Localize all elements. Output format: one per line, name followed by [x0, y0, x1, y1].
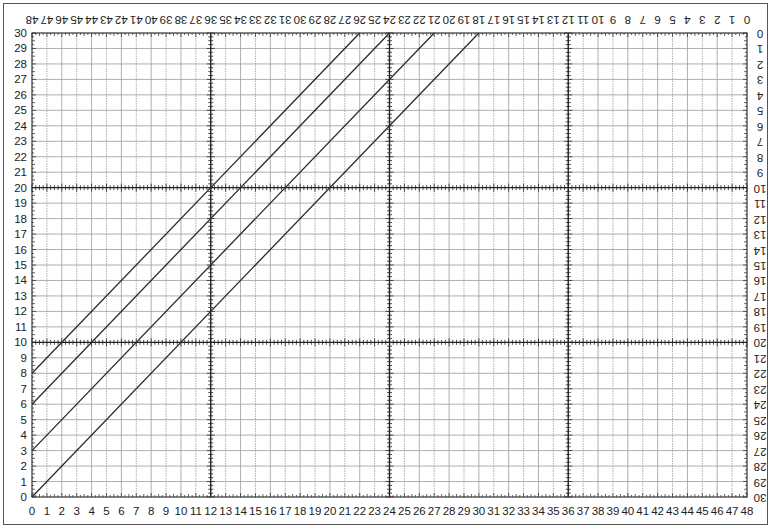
x-tick-label-top: 16 [502, 14, 515, 26]
x-tick-label-top: 24 [383, 14, 396, 26]
x-tick-label: 48 [741, 505, 754, 517]
x-tick-label-top: 30 [294, 14, 307, 26]
x-tick-label-top: 0 [744, 14, 750, 26]
x-tick-label: 32 [502, 505, 515, 517]
x-tick-label: 43 [666, 505, 679, 517]
x-tick-label-top: 20 [443, 14, 456, 26]
x-tick-label-top: 23 [398, 14, 411, 26]
x-tick-label: 34 [532, 505, 545, 517]
y-tick-label-right: 21 [754, 353, 767, 365]
x-tick-label-top: 12 [562, 14, 575, 26]
x-tick-label: 11 [190, 505, 202, 517]
y-tick-label: 20 [14, 182, 27, 194]
x-tick-label: 2 [59, 505, 65, 517]
y-tick-label-right: 29 [754, 477, 767, 489]
y-tick-label: 22 [14, 151, 27, 163]
y-tick-label: 3 [21, 445, 27, 457]
x-tick-label: 12 [204, 505, 217, 517]
x-axis-labels-bottom: 0123456789101112131415161718192021222324… [29, 505, 754, 517]
x-tick-label: 22 [353, 505, 366, 517]
x-tick-label-top: 8 [625, 14, 631, 26]
x-tick-label-top: 48 [26, 14, 39, 26]
y-tick-label-right: 13 [754, 229, 767, 241]
y-axis-labels-left: 0123456789101112131415161718192021222324… [14, 27, 27, 503]
y-tick-label-right: 30 [754, 492, 767, 504]
x-tick-label-top: 21 [428, 14, 441, 26]
x-tick-label: 19 [309, 505, 322, 517]
y-tick-label: 14 [14, 274, 27, 286]
y-tick-label-right: 8 [757, 152, 763, 164]
y-tick-label-right: 6 [757, 121, 763, 133]
x-tick-label-top: 26 [353, 14, 366, 26]
x-tick-label: 14 [234, 505, 247, 517]
y-tick-label: 26 [14, 89, 27, 101]
x-tick-label-top: 33 [249, 14, 262, 26]
x-tick-label-top: 22 [413, 14, 426, 26]
x-tick-label: 17 [279, 505, 292, 517]
x-tick-label: 27 [428, 505, 441, 517]
x-tick-label: 39 [607, 505, 620, 517]
x-tick-label-top: 11 [577, 14, 589, 26]
y-tick-label: 19 [14, 197, 27, 209]
x-tick-label-top: 35 [219, 14, 232, 26]
y-tick-label-right: 10 [754, 183, 767, 195]
y-tick-label: 13 [14, 290, 27, 302]
y-tick-label-right: 3 [757, 74, 763, 86]
y-tick-label-right: 22 [754, 368, 767, 380]
x-tick-label: 44 [681, 505, 694, 517]
y-tick-label-right: 9 [757, 167, 763, 179]
y-tick-label: 10 [14, 336, 27, 348]
x-tick-label-top: 27 [338, 14, 351, 26]
y-tick-label: 12 [14, 305, 27, 317]
x-tick-label: 30 [472, 505, 485, 517]
x-tick-label: 45 [696, 505, 709, 517]
y-tick-label-right: 24 [753, 399, 766, 411]
y-tick-label-right: 25 [754, 415, 767, 427]
x-tick-label-top: 4 [684, 14, 691, 26]
y-tick-label-right: 11 [754, 198, 766, 210]
y-tick-label: 28 [14, 58, 27, 70]
x-tick-label-top: 15 [517, 14, 530, 26]
x-tick-label-top: 40 [145, 14, 158, 26]
x-tick-label: 5 [103, 505, 109, 517]
x-tick-label-top: 18 [472, 14, 485, 26]
x-tick-label-top: 10 [592, 14, 605, 26]
x-tick-label-top: 41 [130, 14, 143, 26]
x-tick-label: 33 [517, 505, 530, 517]
y-tick-label: 24 [14, 120, 27, 132]
y-tick-label: 8 [21, 367, 27, 379]
y-tick-label-right: 14 [753, 245, 766, 257]
x-tick-label: 41 [636, 505, 649, 517]
y-tick-label-right: 26 [754, 430, 767, 442]
x-tick-label-top: 13 [547, 14, 560, 26]
y-tick-label: 6 [21, 398, 27, 410]
x-tick-label: 26 [413, 505, 426, 517]
x-tick-label-top: 38 [175, 14, 188, 26]
x-tick-label-top: 31 [279, 14, 292, 26]
y-tick-label: 18 [14, 213, 27, 225]
x-tick-label: 6 [118, 505, 124, 517]
y-tick-label: 17 [14, 228, 27, 240]
y-tick-label: 0 [21, 491, 27, 503]
x-tick-label-top: 43 [100, 14, 113, 26]
x-tick-label-top: 5 [669, 14, 675, 26]
y-tick-label-right: 19 [754, 322, 767, 334]
x-tick-label-top: 1 [729, 14, 735, 26]
y-tick-label-right: 16 [754, 275, 767, 287]
x-tick-label-top: 32 [264, 14, 277, 26]
y-tick-label: 1 [21, 476, 27, 488]
x-tick-label-top: 2 [714, 14, 720, 26]
x-tick-label-top: 19 [458, 14, 471, 26]
y-tick-label: 30 [14, 27, 27, 39]
x-tick-label: 42 [651, 505, 664, 517]
y-tick-label-right: 5 [757, 105, 763, 117]
x-tick-label: 3 [73, 505, 79, 517]
x-tick-label: 28 [443, 505, 456, 517]
x-tick-label: 7 [133, 505, 139, 517]
x-tick-label: 31 [487, 505, 500, 517]
x-tick-label: 25 [398, 505, 411, 517]
x-tick-label: 16 [264, 505, 277, 517]
y-tick-label-right: 20 [754, 337, 767, 349]
y-tick-label-right: 15 [754, 260, 767, 272]
x-tick-label-top: 29 [309, 14, 322, 26]
